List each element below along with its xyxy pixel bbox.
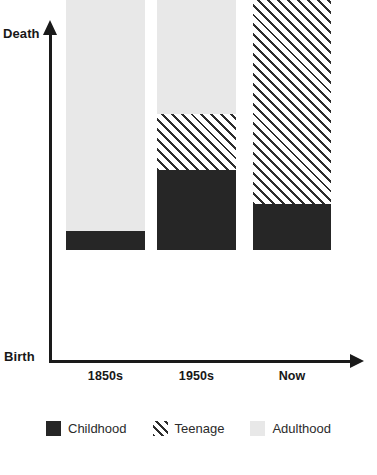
legend-label-teenage: Teenage xyxy=(175,421,225,436)
x-tick-label-now: Now xyxy=(253,369,331,383)
legend-item-adulthood[interactable]: Adulthood xyxy=(250,421,331,436)
bar-1850s[interactable] xyxy=(66,0,145,250)
bar-1950s[interactable] xyxy=(157,0,236,250)
legend-swatch-teenage-icon xyxy=(153,421,168,436)
bar-segment-childhood xyxy=(253,204,331,250)
stacked-bar-chart: Death Birth 1850s 1950s Now Chil xyxy=(0,0,377,475)
legend-item-childhood[interactable]: Childhood xyxy=(46,421,127,436)
bar-segment-adulthood xyxy=(157,0,236,114)
legend-label-childhood: Childhood xyxy=(68,421,127,436)
x-tick-label-1850s: 1850s xyxy=(66,369,145,383)
bar-segment-adulthood xyxy=(66,0,145,231)
bar-segment-teenage xyxy=(253,0,331,204)
legend-swatch-childhood-icon xyxy=(46,421,61,436)
bar-segment-childhood xyxy=(157,170,236,250)
bar-segment-childhood xyxy=(66,231,145,250)
chart-legend: Childhood Teenage Adulthood xyxy=(0,421,377,436)
legend-label-adulthood: Adulthood xyxy=(272,421,331,436)
legend-item-teenage[interactable]: Teenage xyxy=(153,421,225,436)
plot-area xyxy=(0,0,377,363)
legend-swatch-adulthood-icon xyxy=(250,421,265,436)
x-tick-label-1950s: 1950s xyxy=(157,369,236,383)
bar-now[interactable] xyxy=(253,0,331,250)
bar-segment-teenage xyxy=(157,114,236,170)
